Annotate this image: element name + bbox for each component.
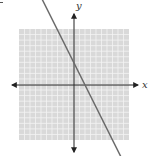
y-axis-label: y	[76, 0, 82, 11]
x-axis-label: x	[142, 79, 148, 90]
plot-area	[0, 0, 150, 156]
